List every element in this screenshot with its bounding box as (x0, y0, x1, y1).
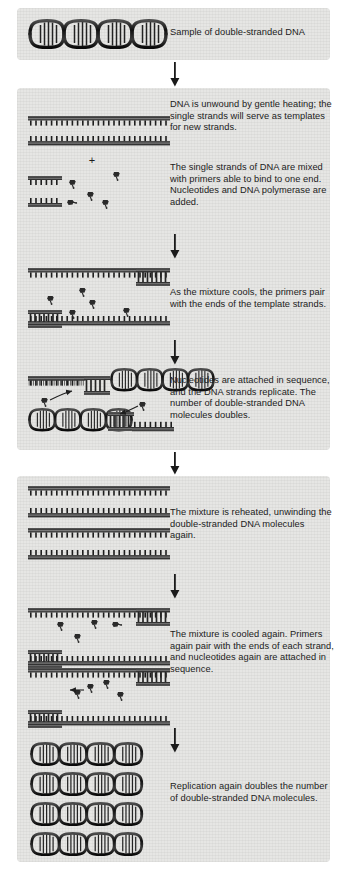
caption-step-4: Nucleotides are attached in sequence, an… (170, 375, 336, 421)
caption-step-7: Replication again doubles the number of … (170, 781, 332, 804)
art-step5-four-strands (28, 486, 170, 560)
arrow-denature-to-anneal-two (170, 574, 179, 599)
caption-step-2a: DNA is unwound by gentle heating; the si… (170, 99, 333, 134)
caption-step-5: The mixture is reheated, unwinding the d… (170, 507, 332, 542)
arrow-anneal-to-replicate-two (170, 728, 179, 753)
free-nucleotides-step6a (57, 620, 122, 643)
caption-step-1: Sample of double-stranded DNA (170, 27, 332, 39)
free-nucleotides-step2 (67, 172, 119, 209)
caption-step-6: The mixture is cooled again. Primers aga… (170, 629, 340, 675)
nucleotide-arrow-a (50, 391, 72, 400)
arrow-cycle-one-to-cycle-two (170, 452, 179, 475)
art-step7-four-helices (32, 743, 142, 854)
plus-sign: + (89, 154, 95, 166)
pcr-figure: + (0, 0, 353, 872)
art-step1-double-helix (30, 21, 166, 48)
arrow-sample-to-cycle-one (170, 62, 179, 87)
arrow-anneal-to-extend (170, 340, 179, 365)
caption-step-2b: The single strands of DNA are mixed with… (170, 162, 333, 208)
caption-step-3: As the mixture cools, the primers pair w… (170, 287, 338, 310)
free-nucleotides-step3 (47, 288, 129, 319)
arrow-denature-to-anneal (170, 234, 179, 259)
art-step3-annealed-primers (28, 268, 170, 328)
art-step2-separated-strands: + (28, 116, 170, 209)
art-step6-annealed-duplexes (28, 608, 170, 728)
